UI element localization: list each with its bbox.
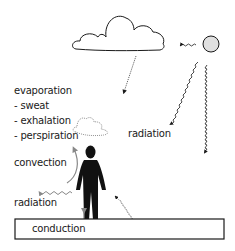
cloud-icon (73, 16, 164, 50)
radiation-arrow-sun-to-cloud (181, 44, 196, 46)
radiation-arrow-sun-to-person (171, 62, 198, 124)
label-convection: convection (14, 158, 67, 168)
radiation-arrow-sun-to-ground (205, 65, 207, 152)
label-conduction: conduction (32, 224, 85, 234)
label-sweat: - sweat (14, 101, 49, 111)
label-radiation-body: radiation (14, 198, 57, 208)
diffuse-radiation-arrow (124, 56, 136, 92)
radiation-arrow-body (40, 192, 72, 195)
convection-arrow (67, 149, 77, 183)
label-evaporation: evaporation (14, 86, 72, 96)
person-icon (76, 146, 106, 221)
label-radiation-sun: radiation (128, 129, 171, 139)
reflected-radiation-arrow (116, 197, 133, 219)
sun-icon (203, 36, 219, 52)
label-perspiration: - perspiration (14, 131, 78, 141)
label-exhalation: - exhalation (14, 116, 71, 126)
